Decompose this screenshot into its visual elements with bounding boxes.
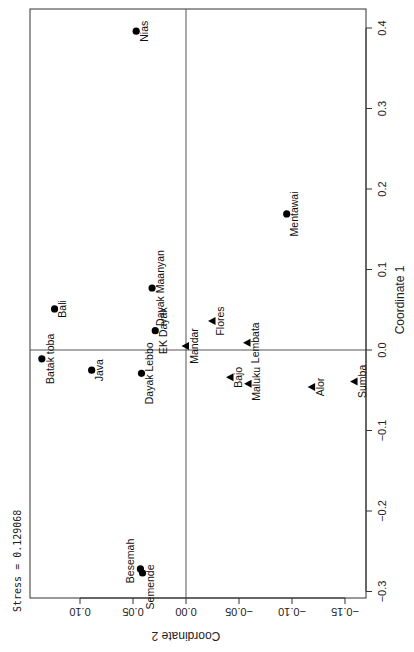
data-point: Mandar bbox=[182, 328, 200, 364]
coordinate-1-tick: −0.3 bbox=[376, 581, 388, 603]
coordinate-1-tick: 0.2 bbox=[376, 181, 388, 196]
data-point: Semende bbox=[139, 564, 156, 609]
data-point: Bali bbox=[51, 300, 68, 318]
data-point: Sumba bbox=[350, 365, 368, 398]
coordinate-2-label: Coordinate 2 bbox=[151, 629, 220, 643]
data-point: Nias bbox=[133, 21, 150, 42]
point-label: Maluku bbox=[250, 367, 262, 401]
point-label: Alor bbox=[314, 377, 326, 396]
point-label: Semende bbox=[144, 564, 156, 609]
point-label: Flores bbox=[214, 306, 226, 335]
data-point: Besemah bbox=[124, 539, 144, 584]
point-label: Lembata bbox=[249, 322, 261, 363]
data-point: Flores bbox=[208, 306, 226, 335]
point-label: Dayak Lebbo bbox=[143, 342, 155, 404]
point-label: Besemah bbox=[124, 539, 136, 584]
point-label: Mentawai bbox=[288, 191, 300, 236]
data-point: Maluku bbox=[244, 367, 262, 401]
coordinate-1-tick: 0.1 bbox=[376, 262, 388, 277]
coordinate-1-tick: −0.1 bbox=[376, 420, 388, 442]
mds-scatter-plot: −0.3−0.2−0.10.00.10.20.30.4 −0.15−0.10−0… bbox=[0, 0, 414, 652]
coordinate-1-label: Coordinate 1 bbox=[393, 265, 407, 334]
stress-annotation: Stress = 0.129068 bbox=[12, 510, 23, 612]
point-label: Sumba bbox=[356, 365, 368, 398]
coordinate-2-tick: 0.00 bbox=[175, 606, 196, 618]
coordinate-2-tick: −0.10 bbox=[278, 606, 306, 618]
plot-frame bbox=[30, 9, 366, 598]
point-label: Mandar bbox=[188, 328, 200, 364]
coordinate-2-tick: −0.05 bbox=[225, 606, 253, 618]
data-point: Bajo bbox=[226, 367, 244, 388]
data-point: Alor bbox=[308, 377, 326, 396]
data-points: NiasBaliDayak MaanyanEK DayakBatak tobaJ… bbox=[38, 21, 368, 610]
data-point: Dayak Lebbo bbox=[138, 342, 155, 404]
data-point: Mentawai bbox=[283, 191, 300, 236]
point-label: Batak toba bbox=[44, 334, 56, 384]
data-point: Batak toba bbox=[38, 334, 55, 384]
data-point: Java bbox=[88, 359, 105, 381]
coordinate-1-tick: 0.3 bbox=[376, 101, 388, 116]
point-label: EK Dayak bbox=[157, 307, 169, 354]
coordinate-1-tick: 0.0 bbox=[376, 342, 388, 357]
point-label: Bali bbox=[56, 300, 68, 318]
coordinate-1-tick: −0.2 bbox=[376, 500, 388, 522]
reference-lines bbox=[30, 9, 366, 598]
point-label: Bajo bbox=[232, 367, 244, 388]
coordinate-2-tick: 0.05 bbox=[122, 606, 143, 618]
coordinate-2-axis: −0.15−0.10−0.050.000.050.10 bbox=[69, 598, 359, 618]
coordinate-1-tick: 0.4 bbox=[376, 20, 388, 35]
point-label: Nias bbox=[138, 21, 150, 42]
point-label: Java bbox=[93, 359, 105, 381]
data-point: Lembata bbox=[243, 322, 261, 363]
coordinate-2-tick: 0.10 bbox=[69, 606, 90, 618]
coordinate-2-tick: −0.15 bbox=[331, 606, 359, 618]
coordinate-1-axis: −0.3−0.2−0.10.00.10.20.30.4 bbox=[366, 20, 388, 602]
